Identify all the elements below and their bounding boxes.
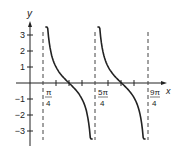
x-axis-label: x xyxy=(165,86,171,96)
svg-text:π: π xyxy=(46,88,52,97)
svg-text:1: 1 xyxy=(20,62,25,72)
svg-text:−1: −1 xyxy=(15,94,25,104)
y-axis-label: y xyxy=(26,8,33,19)
svg-text:4: 4 xyxy=(100,99,105,108)
svg-text:5π: 5π xyxy=(98,88,108,97)
svg-text:−3: −3 xyxy=(15,126,25,136)
asymptotes xyxy=(43,32,148,140)
cotangent-chart: y x 3 2 1 −1 −2 −3 π 4 5π 4 9π xyxy=(0,0,175,148)
svg-text:4: 4 xyxy=(46,99,51,108)
x-axis-arrow xyxy=(161,81,167,85)
x-tick-labels: π 4 5π 4 9π 4 xyxy=(45,88,160,108)
y-axis-arrow xyxy=(28,21,32,27)
svg-text:3: 3 xyxy=(20,30,25,40)
svg-text:9π: 9π xyxy=(150,88,160,97)
svg-text:4: 4 xyxy=(152,99,157,108)
svg-text:−2: −2 xyxy=(15,110,25,120)
svg-text:2: 2 xyxy=(20,46,25,56)
